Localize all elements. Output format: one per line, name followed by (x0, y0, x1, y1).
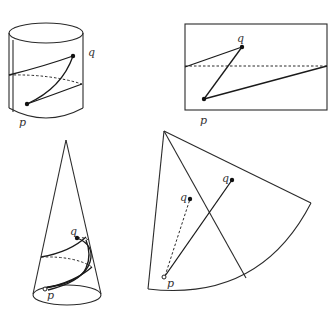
unrolled-rectangle (185, 24, 327, 110)
cylinder-helix-front-upper (9, 56, 73, 75)
cone-left-edge (33, 140, 66, 294)
unrolled-cone-panel: q q p (148, 131, 311, 291)
cylinder-helix-front-lower (27, 84, 82, 104)
unrolled-point-q (240, 45, 244, 49)
cone-geodesic (45, 238, 91, 288)
sector-label-q1: q (222, 172, 229, 185)
cylinder-point-q (71, 54, 75, 58)
cone-helix-back-middle (41, 257, 92, 267)
sector-point-p (162, 275, 166, 279)
cone-helix-front-upper (41, 237, 86, 257)
cylinder-panel: q p (9, 23, 95, 129)
cone-panel: q p (33, 140, 101, 305)
sector-label-p: p (167, 277, 174, 290)
sector-dashed-segment (165, 199, 190, 276)
unrolled-label-p: p (200, 114, 207, 127)
cylinder-label-p: p (19, 116, 26, 129)
unrolled-segment-upper (185, 47, 242, 67)
cone-geodesic-2 (48, 240, 89, 290)
cylinder-helix-back (9, 75, 82, 84)
cylinder-point-p (25, 102, 29, 106)
unrolled-straight-geodesic (204, 47, 242, 99)
sector-point-q1 (230, 178, 234, 182)
cone-label-q: q (70, 225, 77, 238)
unrolled-cylinder-panel: q p (185, 24, 327, 127)
sector-label-q2: q (180, 191, 187, 204)
cone-label-p: p (47, 289, 54, 302)
cylinder-label-q: q (88, 46, 95, 59)
sector-cut-line (164, 131, 246, 278)
sector-straight-geodesic (165, 180, 232, 276)
unrolled-label-q: q (237, 32, 244, 45)
sector-left-edge (148, 131, 164, 289)
geodesics-figure: q p q p q p (0, 0, 335, 319)
sector-point-q2 (188, 197, 192, 201)
cone-right-edge (66, 140, 101, 294)
unrolled-segment-lower (204, 66, 327, 99)
cylinder-top-ellipse (9, 23, 83, 43)
unrolled-point-p (202, 97, 206, 101)
